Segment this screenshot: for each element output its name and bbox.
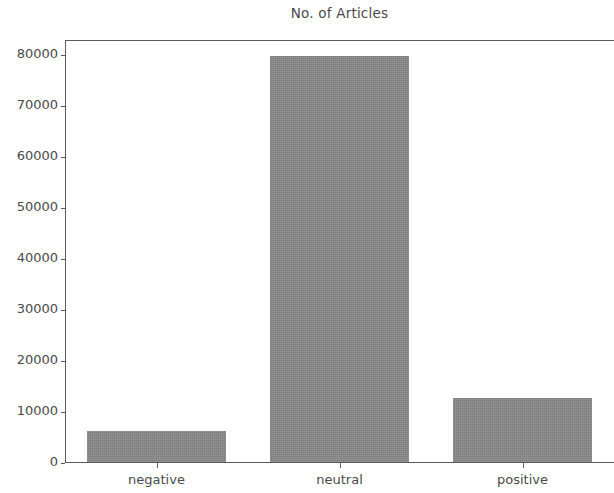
y-tick-label: 10000 (2, 403, 58, 418)
x-tick-label-neutral: neutral (316, 472, 363, 487)
y-tick-label: 40000 (2, 250, 58, 265)
y-axis-labels: 0100002000030000400005000060000700008000… (0, 40, 58, 463)
x-tick-label-negative: negative (128, 472, 185, 487)
y-tick-label: 70000 (2, 97, 58, 112)
y-tick-label: 0 (2, 454, 58, 469)
y-tick-label: 30000 (2, 301, 58, 316)
bar-chart-figure: No. of Articles 010000200003000040000500… (0, 0, 614, 493)
y-tick-label: 60000 (2, 148, 58, 163)
y-tick-label: 20000 (2, 352, 58, 367)
x-tick-label-positive: positive (497, 472, 548, 487)
y-tick-label: 80000 (2, 46, 58, 61)
y-tick-label: 50000 (2, 199, 58, 214)
x-axis-labels: negativeneutralpositive (65, 0, 614, 493)
